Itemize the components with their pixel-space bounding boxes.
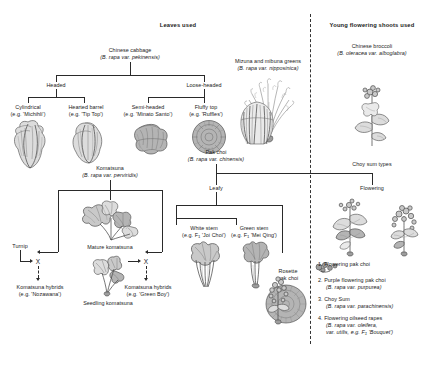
illustration-cylindrical-cabbage (8, 118, 52, 170)
label-hybrids-right-cultivar: (e.g. 'Green Boy') (127, 291, 170, 297)
label-cylindrical-cultivar: (e.g. 'Michihli') (11, 111, 46, 117)
label-seedling-komatsuna: Seedling komatsuna (83, 300, 133, 306)
connector-komatsuna-right (162, 190, 163, 252)
list-num-3: 3. (318, 296, 323, 302)
header-leaves-used: Leaves used (160, 22, 196, 28)
label-hearted-barrel-name: Hearted barrel (68, 104, 103, 110)
list-latin-3: (B. rapa var. parachinensis) (326, 303, 393, 309)
list-name-1: Flowering pak choi (324, 261, 370, 267)
list-item-purple-flowering-pak-choi: 2. Purple flowering pak choi (318, 277, 430, 283)
connector-turnip-down (20, 250, 21, 261)
illustration-white-stem-pak-choi (186, 238, 226, 288)
label-cylindrical-name: Cylindrical (15, 104, 40, 110)
connector-hearted-drop (84, 97, 85, 103)
illustration-flowering-pak-choi (328, 198, 376, 256)
connector-rosette-down (282, 205, 283, 253)
section-divider (310, 14, 311, 344)
label-chinese-cabbage-common: Chinese cabbage (109, 47, 152, 53)
illustration-semi-headed-cabbage (130, 118, 172, 158)
arrow-left-hybrid (36, 278, 40, 281)
connector-mature-stub (110, 199, 111, 200)
label-chinese-broccoli-common: Chinese broccoli (352, 43, 393, 49)
figure-canvas: Leaves used Young flowering shoots used … (0, 0, 435, 369)
connector-headed-split (28, 97, 84, 98)
label-headed: Headed (46, 82, 65, 88)
connector-turnip-right (20, 261, 30, 262)
label-hybrids-right-name: Komatsuna hybrids (125, 284, 172, 290)
connector-komatsuna-trunk (110, 180, 111, 190)
connector-loose-trunk (204, 89, 205, 97)
list-item-flowering-pak-choi: 1. Flowering pak choi (318, 261, 430, 267)
connector-left-to-cross (40, 252, 58, 253)
illustration-mature-komatsuna (78, 196, 144, 242)
label-chinese-broccoli-latin: (B. oleracea var. alboglabra) (337, 50, 406, 56)
connector-loose-drop (204, 75, 205, 82)
connector-fluffy-drop (204, 97, 205, 103)
list-name-4: Flowering oilseed rapes (324, 315, 382, 321)
label-green-stem-name: Green stem (240, 225, 269, 231)
header-young-shoots-used: Young flowering shoots used (330, 22, 415, 28)
label-chinese-cabbage-latin: (B. rapa var. pekinensis) (100, 54, 159, 60)
connector-green-stem-drop (236, 218, 237, 225)
label-mizuna-common: Mizuna and mibuna greens (235, 58, 301, 64)
arrow-seedling-cross (138, 259, 141, 263)
connector-komatsuna-left (58, 190, 59, 252)
connector-white-stem-drop (176, 218, 177, 225)
connector-right-hybrid-dashed (146, 266, 147, 278)
arrow-turnip-cross (30, 259, 33, 263)
list-latin-4b: var. utilis, e.g. F1 'Bouquet') (326, 329, 393, 337)
illustration-pak-choi-top (234, 100, 280, 146)
label-komatsuna-latin: (B. rapa var. perviridis) (82, 172, 138, 178)
label-hybrids-left-name: Komatsuna hybrids (17, 284, 64, 290)
list-name-2: Purple flowering pak choi (324, 277, 385, 283)
connector-leafy-split (176, 205, 282, 206)
connector-leafy-drop (216, 173, 217, 185)
label-komatsuna-common: Komatsuna (96, 165, 124, 171)
label-fluffy-top-cultivar: (e.g. 'Ruffles') (189, 111, 223, 117)
list-num-2: 2. (318, 277, 323, 283)
label-leafy: Leafy (209, 185, 222, 191)
label-turnip: Turnip (12, 243, 27, 249)
list-latin-4a: (B. rapa var. oleifera, (326, 322, 377, 328)
label-rosette-line1: Rosette (279, 268, 298, 274)
label-pak-choi-common: Pak choi (205, 149, 226, 155)
list-num-1: 1. (318, 261, 323, 267)
list-latin-2: (B. rapa var. purpurea) (326, 284, 381, 290)
arrow-right-cross (145, 250, 148, 254)
illustration-seedling-komatsuna (84, 252, 130, 296)
list-latin-4b-pre: var. utilis, e.g. F (326, 329, 365, 335)
label-semi-headed-cultivar: (e.g. 'Minato Santo') (124, 111, 173, 117)
illustration-chinese-broccoli (348, 82, 398, 148)
connector-cabbage-trunk (130, 62, 131, 75)
arrow-left-cross (37, 250, 40, 254)
cross-symbol-left: X (36, 259, 40, 266)
label-flowering: Flowering (360, 185, 384, 191)
connector-headed-drop (56, 75, 57, 82)
label-semi-headed-name: Semi-headed (132, 104, 165, 110)
connector-cylindrical-drop (28, 97, 29, 103)
illustration-choy-sum-flowering (384, 204, 428, 256)
arrow-right-hybrid (144, 278, 148, 281)
connector-loose-split (148, 97, 204, 98)
label-loose-headed: Loose-headed (186, 82, 221, 88)
label-hearted-barrel-cultivar: (e.g. 'Tip Top') (69, 111, 103, 117)
connector-leafy-trunk (216, 192, 217, 205)
illustration-hearted-barrel-cabbage (68, 120, 108, 165)
connector-stems-group (176, 205, 177, 218)
label-hybrids-left-cultivar: (e.g. 'Nozawana') (19, 291, 61, 297)
connector-semiheaded-drop (148, 97, 149, 103)
connector-headed-trunk (56, 89, 57, 97)
connector-cabbage-split (56, 75, 204, 76)
connector-left-hybrid-dashed (38, 266, 39, 278)
label-mizuna-latin: (B. rapa var. nipposinica) (237, 65, 298, 71)
cross-symbol-right: X (144, 259, 148, 266)
connector-stems-split (176, 218, 236, 219)
list-item-choy-sum: 3. Choy Sum (318, 296, 430, 302)
label-fluffy-top-name: Fluffy top (195, 104, 218, 110)
list-latin-4b-post: 'Bouquet') (367, 329, 393, 335)
list-num-4: 4. (318, 315, 323, 321)
connector-pakchoi-to-choysum (216, 173, 372, 174)
list-item-flowering-oilseed-rapes: 4. Flowering oilseed rapes (318, 315, 430, 321)
illustration-choy-sum-small (262, 276, 296, 324)
connector-flowering-drop (372, 173, 373, 185)
